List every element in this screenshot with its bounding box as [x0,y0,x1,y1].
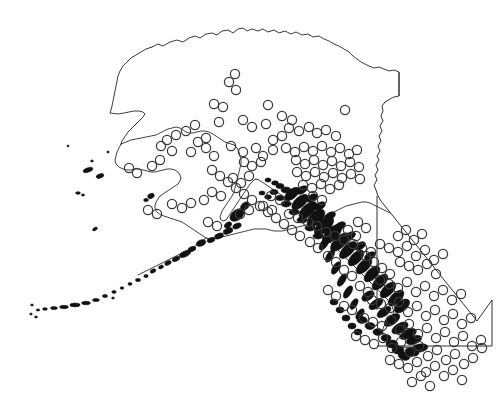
map-canvas [0,0,498,393]
map-figure: occurrence records [0,0,498,393]
